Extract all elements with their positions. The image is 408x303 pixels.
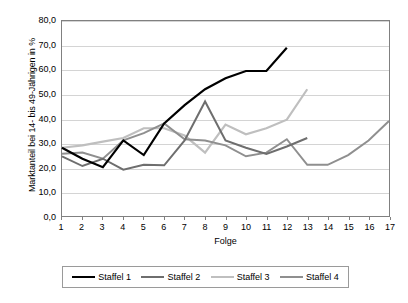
x-axis-tick-mark <box>123 217 124 220</box>
x-axis-tick-mark <box>369 217 370 220</box>
x-axis-tick-mark <box>287 217 288 220</box>
y-axis-tick-label: 70,0 <box>26 40 56 50</box>
x-axis-tick-mark <box>246 217 247 220</box>
y-axis-tick-label: 50,0 <box>26 89 56 99</box>
y-axis-tick-label: 10,0 <box>26 187 56 197</box>
x-axis-tick-labels: 1234567891011121314151617 <box>61 222 390 236</box>
y-axis-tick-label: 80,0 <box>26 15 56 25</box>
y-axis-tick-label: 20,0 <box>26 163 56 173</box>
x-axis-tick-mark <box>184 217 185 220</box>
x-axis-tick-label: 17 <box>378 222 402 232</box>
series-line <box>62 89 307 152</box>
legend-label: Staffel 2 <box>167 272 200 282</box>
x-axis-tick-mark <box>102 217 103 220</box>
x-axis-tick-mark <box>143 217 144 220</box>
chart-figure: Marktanteil bei 14- bis 49-Jährigen in %… <box>0 0 408 303</box>
chart-legend: Staffel 1Staffel 2Staffel 3Staffel 4 <box>62 266 349 288</box>
y-axis-tick-label: 30,0 <box>26 138 56 148</box>
legend-swatch <box>141 276 164 278</box>
legend-item[interactable]: Staffel 3 <box>211 272 270 282</box>
x-axis-tick-mark <box>82 217 83 220</box>
legend-item[interactable]: Staffel 2 <box>141 272 200 282</box>
x-axis-tick-mark <box>328 217 329 220</box>
legend-swatch <box>280 276 303 278</box>
legend-item[interactable]: Staffel 1 <box>72 272 131 282</box>
x-axis-tick-mark <box>205 217 206 220</box>
legend-swatch <box>211 276 234 278</box>
y-axis-tick-label: 40,0 <box>26 114 56 124</box>
plot-area <box>61 20 390 217</box>
legend-label: Staffel 3 <box>237 272 270 282</box>
x-axis-tick-mark <box>164 217 165 220</box>
legend-label: Staffel 1 <box>98 272 131 282</box>
x-axis-tick-mark <box>390 217 391 220</box>
y-axis-tick-labels: 0,010,020,030,040,050,060,070,080,0 <box>26 20 56 217</box>
legend-swatch <box>72 276 95 278</box>
x-axis-tick-mark <box>349 217 350 220</box>
x-axis-title: Folge <box>61 236 390 246</box>
y-axis-tick-label: 60,0 <box>26 64 56 74</box>
legend-item[interactable]: Staffel 4 <box>280 272 339 282</box>
x-axis-tick-mark <box>61 217 62 220</box>
x-axis-tick-mark <box>267 217 268 220</box>
x-axis-tick-mark <box>226 217 227 220</box>
x-axis-tick-marks <box>61 217 390 221</box>
x-axis-tick-mark <box>308 217 309 220</box>
legend-label: Staffel 4 <box>306 272 339 282</box>
y-axis-tick-label: 0,0 <box>26 212 56 222</box>
series-lines <box>62 21 389 216</box>
